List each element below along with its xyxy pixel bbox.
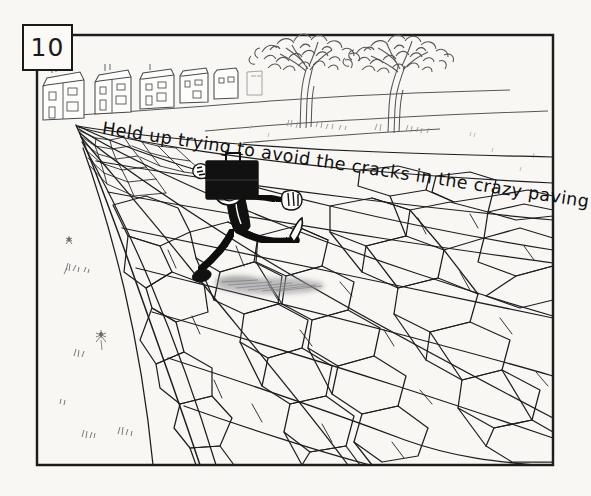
right-hand [282,190,302,210]
panel-number-box: 10 [22,24,73,71]
panel-number: 10 [24,26,71,69]
